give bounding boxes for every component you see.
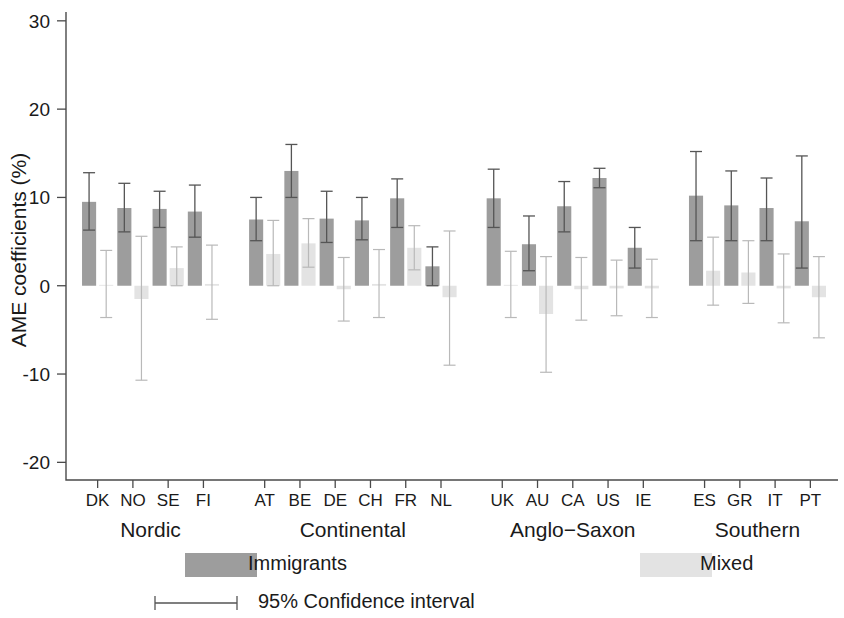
y-tick-label: -10: [23, 364, 50, 385]
y-tick-label: 30: [29, 11, 50, 32]
ci-mixed-DE: [338, 257, 350, 321]
x-tick-label-ES: ES: [693, 491, 716, 510]
group-labels-layer: NordicContinentalAnglo−SaxonSouthern: [120, 518, 800, 541]
ci-mixed-CH: [373, 250, 385, 318]
ci-mixed-GR: [742, 241, 754, 304]
chart-figure: DKNOSEFIATBEDECHFRNLUKAUCAUSIEESGRITPT 3…: [0, 0, 844, 618]
x-tick-label-GR: GR: [727, 491, 753, 510]
y-axis-title: AME coefficients (%): [7, 153, 30, 348]
bar-immigrants-US: [592, 178, 606, 286]
ame-coefficients-bar-chart: DKNOSEFIATBEDECHFRNLUKAUCAUSIEESGRITPT 3…: [0, 0, 844, 618]
x-tick-label-US: US: [596, 491, 620, 510]
legend-layer: ImmigrantsMixed95% Confidence interval: [155, 552, 753, 612]
y-tick-label: 0: [39, 276, 50, 297]
x-tick-label-CH: CH: [358, 491, 383, 510]
x-tick-label-IE: IE: [635, 491, 651, 510]
ci-mixed-DK: [100, 250, 112, 317]
x-tick-label-SE: SE: [157, 491, 180, 510]
y-tick-label: -20: [23, 452, 50, 473]
x-tick-label-DE: DE: [323, 491, 347, 510]
legend-entry-confidence-interval: 95% Confidence interval: [155, 590, 475, 612]
plot-axes-layer: [57, 12, 838, 488]
y-tick-label: 20: [29, 99, 50, 120]
legend-entry-mixed: Mixed: [640, 552, 753, 577]
y-tick-label: 10: [29, 187, 50, 208]
ci-mixed-AU: [540, 257, 552, 373]
x-tick-label-DK: DK: [86, 491, 110, 510]
plot-bars-layer: [82, 144, 826, 380]
legend-label-mixed: Mixed: [700, 552, 753, 574]
legend-label-immigrants: Immigrants: [248, 552, 347, 574]
legend-swatch-immigrants: [185, 553, 257, 577]
group-label-continental: Continental: [300, 518, 406, 541]
x-tick-label-AU: AU: [526, 491, 550, 510]
axis-spine: [66, 12, 838, 480]
ci-mixed-NL: [444, 231, 456, 365]
x-tick-label-UK: UK: [490, 491, 514, 510]
legend-entry-immigrants: Immigrants: [185, 552, 347, 577]
x-tick-label-CA: CA: [561, 491, 585, 510]
group-label-nordic: Nordic: [120, 518, 181, 541]
x-tick-label-NL: NL: [430, 491, 452, 510]
ci-mixed-NO: [135, 236, 147, 380]
x-axis-labels-layer: DKNOSEFIATBEDECHFRNLUKAUCAUSIEESGRITPT: [86, 491, 821, 510]
x-tick-label-IT: IT: [768, 491, 783, 510]
x-tick-label-FI: FI: [196, 491, 211, 510]
x-tick-label-FR: FR: [394, 491, 417, 510]
x-tick-label-PT: PT: [800, 491, 822, 510]
ci-mixed-UK: [505, 251, 517, 317]
ci-mixed-FI: [206, 245, 218, 319]
x-tick-label-AT: AT: [254, 491, 274, 510]
x-tick-label-NO: NO: [120, 491, 146, 510]
group-label-anglo-saxon: Anglo−Saxon: [510, 518, 636, 541]
legend-label-confidence-interval: 95% Confidence interval: [258, 590, 475, 612]
group-label-southern: Southern: [715, 518, 800, 541]
x-tick-label-BE: BE: [289, 491, 312, 510]
